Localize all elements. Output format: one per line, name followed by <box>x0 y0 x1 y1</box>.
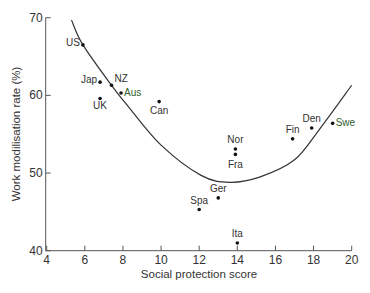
data-point-spa: Spa <box>190 195 208 212</box>
point-marker <box>119 91 123 95</box>
point-label: Spa <box>190 195 208 206</box>
y-tick-label: 60 <box>29 88 43 102</box>
fit-curve <box>71 20 351 182</box>
data-point-fin: Fin <box>286 124 300 141</box>
point-label: Aus <box>124 87 141 98</box>
point-label: Ita <box>232 228 244 239</box>
x-tick-label: 14 <box>231 253 245 267</box>
scatter-chart: 46810121416182040506070 USJapNZAusUKCanN… <box>0 0 370 293</box>
x-tick-label: 12 <box>193 253 207 267</box>
data-point-fra: Fra <box>228 153 243 171</box>
data-points: USJapNZAusUKCanNorFraGerSpaItaFinDenSwe <box>66 37 356 245</box>
point-label: Jap <box>81 74 98 85</box>
axes: 46810121416182040506070 <box>29 11 358 267</box>
point-label: Swe <box>336 117 356 128</box>
data-point-uk: UK <box>93 97 107 112</box>
x-tick-label: 8 <box>120 253 127 267</box>
data-point-ger: Ger <box>210 183 227 200</box>
data-point-can: Can <box>150 100 168 116</box>
point-marker <box>197 208 201 212</box>
data-point-ita: Ita <box>232 228 244 245</box>
data-point-swe: Swe <box>331 117 356 128</box>
point-marker <box>110 83 114 87</box>
x-tick-label: 18 <box>307 253 321 267</box>
x-tick-label: 4 <box>43 253 50 267</box>
data-point-aus: Aus <box>119 87 141 98</box>
caption-fragment <box>10 284 365 293</box>
data-point-nor: Nor <box>227 134 244 151</box>
y-tick-label: 50 <box>29 166 43 180</box>
point-marker <box>234 147 238 151</box>
point-marker <box>236 241 240 245</box>
x-tick-label: 10 <box>154 253 168 267</box>
point-marker <box>291 137 295 141</box>
y-tick-label: 40 <box>29 244 43 258</box>
point-marker <box>98 80 102 84</box>
point-label: NZ <box>115 73 128 84</box>
point-marker <box>331 122 335 126</box>
y-tick-label: 70 <box>29 11 43 25</box>
x-tick-label: 16 <box>269 253 283 267</box>
data-point-nz: NZ <box>110 73 128 87</box>
point-marker <box>310 126 314 130</box>
point-label: Can <box>150 105 168 116</box>
point-marker <box>81 43 85 47</box>
x-tick-label: 20 <box>345 253 359 267</box>
point-marker <box>234 153 238 157</box>
point-label: UK <box>93 100 107 111</box>
point-label: Ger <box>210 183 227 194</box>
point-label: US <box>66 37 80 48</box>
data-point-jap: Jap <box>81 74 102 85</box>
point-label: Nor <box>227 134 244 145</box>
point-marker <box>157 100 161 104</box>
x-tick-label: 6 <box>81 253 88 267</box>
y-axis-title: Work modilisation rate (%) <box>10 67 22 202</box>
y-axis-title-text: Work modilisation rate (%) <box>10 67 22 202</box>
data-point-den: Den <box>302 113 320 130</box>
point-label: Fra <box>228 159 243 170</box>
point-label: Den <box>302 113 320 124</box>
point-label: Fin <box>286 124 300 135</box>
x-axis-title: Social protection score <box>141 268 257 280</box>
point-marker <box>216 196 220 200</box>
